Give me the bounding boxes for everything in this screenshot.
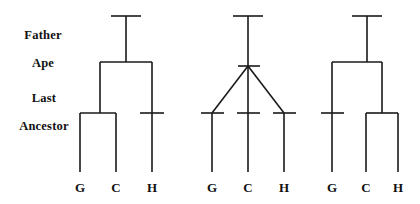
- tree-2-taxon-label-H: H: [275, 180, 293, 195]
- tree-3-taxon-label-G: G: [323, 180, 341, 195]
- tree-3-taxon-label-C: C: [357, 180, 375, 195]
- tree-2-diagonal-H: [248, 66, 284, 113]
- tree-2-diagonal-G: [212, 66, 248, 113]
- level-label-father-ape: Father Ape: [2, 14, 84, 84]
- level-label-last-ancestor-line1: Last: [0, 91, 88, 105]
- tree-2-taxon-label-C: C: [239, 180, 257, 195]
- tree-3-taxon-label-H: H: [389, 180, 407, 195]
- level-label-last-ancestor-line2: Ancestor: [0, 119, 88, 133]
- tree-3-group: [321, 16, 398, 172]
- tree-2-group: [201, 16, 296, 172]
- tree-1-taxon-label-C: C: [107, 180, 125, 195]
- tree-1-taxon-label-G: G: [71, 180, 89, 195]
- level-label-father-ape-line1: Father: [2, 28, 84, 42]
- level-label-father-ape-line2: Ape: [2, 56, 84, 70]
- tree-1-taxon-label-H: H: [143, 180, 161, 195]
- tree-2-taxon-label-G: G: [203, 180, 221, 195]
- tree-1-group: [80, 16, 164, 172]
- level-label-last-ancestor: Last Ancestor: [0, 77, 88, 147]
- phylogeny-figure: Father Ape Last Ancestor G C H G C H G C…: [0, 0, 420, 204]
